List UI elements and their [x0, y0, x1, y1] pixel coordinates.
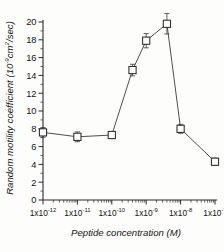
chart-figure: 02468101214161820 1x10-121x10-111x10-101…	[0, 0, 224, 252]
data-point-marker	[74, 133, 81, 140]
y-tick-label: 18	[26, 35, 36, 45]
data-point-marker	[39, 129, 46, 136]
y-tick-label: 0	[31, 195, 36, 205]
svg-text:Peptide concentration (M): Peptide concentration (M)	[71, 227, 181, 238]
y-tick-label: 16	[26, 53, 36, 63]
y-tick-label: 14	[26, 71, 36, 81]
y-tick-label: 10	[26, 106, 36, 116]
data-point-marker	[177, 125, 184, 132]
y-tick-label: 20	[26, 17, 36, 27]
y-tick-label: 12	[26, 89, 36, 99]
x-tick-label: 1x10-7	[203, 207, 224, 218]
x-axis-title: Peptide concentration (M)	[71, 227, 181, 238]
y-tick-label: 2	[31, 178, 36, 188]
random-motility-line-chart: 02468101214161820 1x10-121x10-111x10-101…	[0, 0, 224, 252]
data-point-marker	[108, 131, 115, 138]
data-point-marker	[143, 37, 150, 44]
y-tick-label: 8	[31, 124, 36, 134]
y-tick-label: 4	[31, 160, 36, 170]
y-tick-label: 6	[31, 142, 36, 152]
y-axis-title: Random motility coefficient (10-9cm2/sec…	[3, 21, 15, 195]
data-point-marker	[129, 66, 136, 73]
svg-text:Random motility coefficient (1: Random motility coefficient (10-9cm2/sec…	[3, 21, 15, 195]
data-point-marker	[211, 158, 218, 165]
data-point-marker	[163, 20, 170, 27]
